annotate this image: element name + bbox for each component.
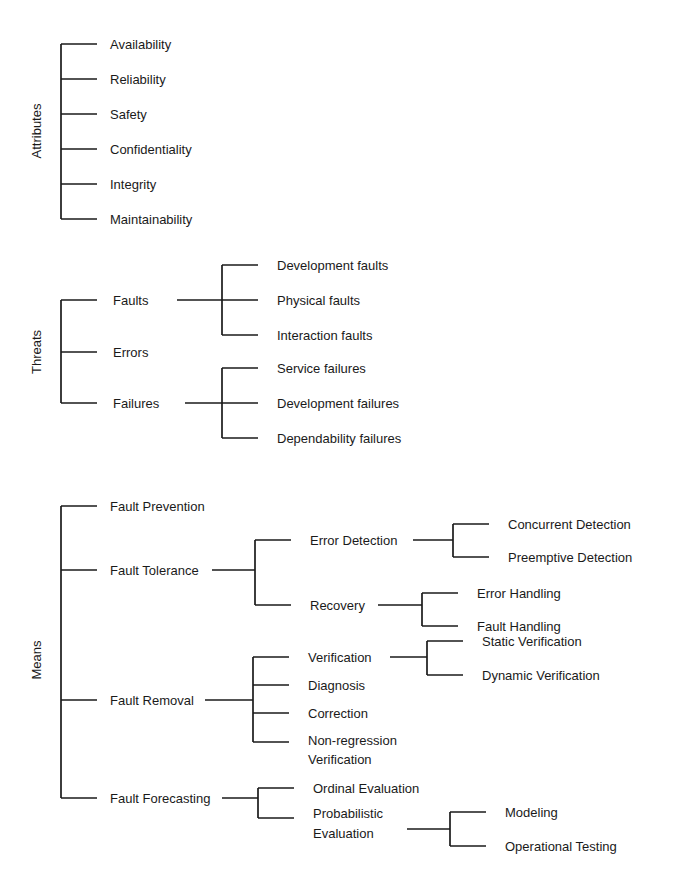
means-group: Means Fault Prevention Fault Tolerance F… [29, 499, 632, 854]
recovery-child-fault-handling: Fault Handling [477, 619, 561, 634]
fault-forecasting-child-probabilistic-line1: Probabilistic [313, 806, 384, 821]
failures-child-dependability: Dependability failures [277, 431, 402, 446]
means-item-fault-forecasting: Fault Forecasting [110, 791, 210, 806]
threats-item-failures: Failures [113, 396, 160, 411]
means-item-fault-removal: Fault Removal [110, 693, 194, 708]
faults-child-physical: Physical faults [277, 293, 361, 308]
attributes-item-safety: Safety [110, 107, 147, 122]
failures-child-service: Service failures [277, 361, 366, 376]
means-item-fault-prevention: Fault Prevention [110, 499, 205, 514]
attributes-item-availability: Availability [110, 37, 172, 52]
fault-tolerance-child-recovery: Recovery [310, 598, 365, 613]
attributes-group-label: Attributes [29, 103, 44, 158]
tree-svg-canvas: Attributes Availability Reliability Safe… [0, 0, 673, 891]
failures-child-development: Development failures [277, 396, 400, 411]
fault-removal-child-non-regression-line1: Non-regression [308, 733, 397, 748]
fault-removal-child-correction: Correction [308, 706, 368, 721]
recovery-child-error-handling: Error Handling [477, 586, 561, 601]
attributes-item-maintainability: Maintainability [110, 212, 193, 227]
fault-removal-child-verification: Verification [308, 650, 372, 665]
attributes-item-reliability: Reliability [110, 72, 166, 87]
fault-forecasting-child-ordinal: Ordinal Evaluation [313, 781, 419, 796]
verification-child-static: Static Verification [482, 634, 582, 649]
fault-removal-child-diagnosis: Diagnosis [308, 678, 366, 693]
attributes-group: Attributes Availability Reliability Safe… [29, 37, 193, 227]
attributes-item-integrity: Integrity [110, 177, 157, 192]
attributes-item-confidentiality: Confidentiality [110, 142, 192, 157]
threats-item-errors: Errors [113, 345, 149, 360]
error-detection-child-concurrent: Concurrent Detection [508, 517, 631, 532]
fault-forecasting-child-probabilistic-line2: Evaluation [313, 826, 374, 841]
probabilistic-child-operational-testing: Operational Testing [505, 839, 617, 854]
threats-group: Threats Faults Errors Failures Developme… [29, 258, 402, 446]
verification-child-dynamic: Dynamic Verification [482, 668, 600, 683]
probabilistic-child-modeling: Modeling [505, 805, 558, 820]
error-detection-child-preemptive: Preemptive Detection [508, 550, 632, 565]
threats-group-label: Threats [29, 329, 44, 374]
faults-child-development: Development faults [277, 258, 389, 273]
fault-removal-child-non-regression-line2: Verification [308, 752, 372, 767]
means-group-label: Means [29, 640, 44, 680]
means-item-fault-tolerance: Fault Tolerance [110, 563, 199, 578]
fault-tolerance-child-error-detection: Error Detection [310, 533, 397, 548]
faults-child-interaction: Interaction faults [277, 328, 373, 343]
threats-item-faults: Faults [113, 293, 149, 308]
dependability-tree-diagram: Attributes Availability Reliability Safe… [0, 0, 673, 891]
